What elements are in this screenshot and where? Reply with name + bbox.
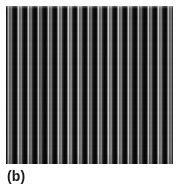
- fringe-pattern-panel: [6, 6, 173, 164]
- panel-vignette-overlay: [6, 6, 173, 164]
- figure-caption-label: (b): [7, 169, 25, 183]
